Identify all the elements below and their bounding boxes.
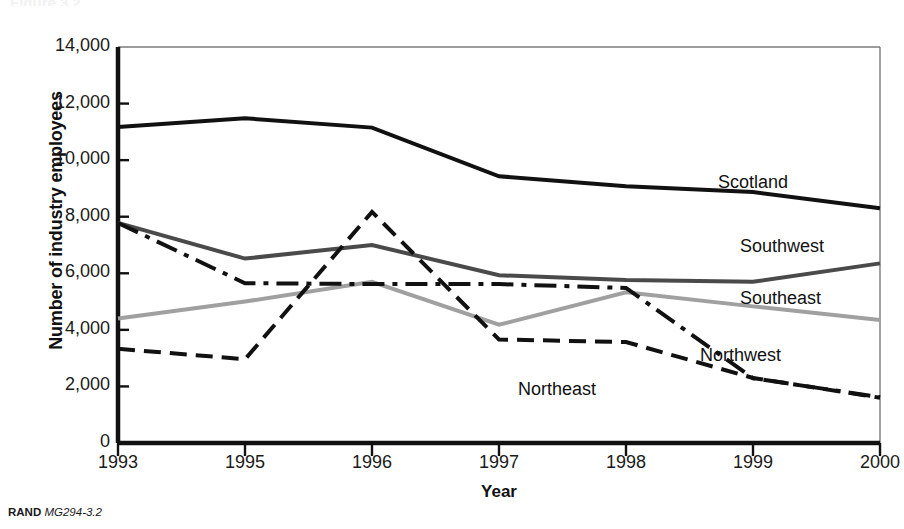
y-axis-tick-label: 8,000 [18,205,110,226]
y-axis-tick-label: 4,000 [18,318,110,339]
y-axis-tick-label: 0 [18,431,110,452]
x-axis-tick-label: 1999 [698,452,808,473]
series-label-southeast: Southeast [740,288,821,309]
x-axis-tick-label: 1997 [444,452,554,473]
series-label-southwest: Southwest [740,236,824,257]
series-label-northwest: Northwest [700,345,781,366]
y-axis-tick-label: 14,000 [18,35,110,56]
figure-credit: RAND MG294-3.2 [8,506,102,518]
x-axis-tick-label: 2000 [825,452,904,473]
series-label-northeast: Northeast [518,379,596,400]
cut-off-title: Figure 3.2 [0,0,889,6]
y-axis-tick-label: 10,000 [18,148,110,169]
credit-org: RAND [8,506,41,518]
y-axis-tick-label: 2,000 [18,374,110,395]
series-line-scotland [118,118,880,208]
y-axis-tick-label: 12,000 [18,92,110,113]
x-axis-tick-label: 1998 [571,452,681,473]
x-axis-tick-label: 1996 [317,452,427,473]
x-axis-tick-label: 1993 [63,452,173,473]
x-axis-title: Year [118,482,880,502]
x-axis-tick-label: 1995 [190,452,300,473]
y-axis-tick-label: 6,000 [18,261,110,282]
series-label-scotland: Scotland [718,172,788,193]
credit-id: MG294-3.2 [44,506,102,518]
